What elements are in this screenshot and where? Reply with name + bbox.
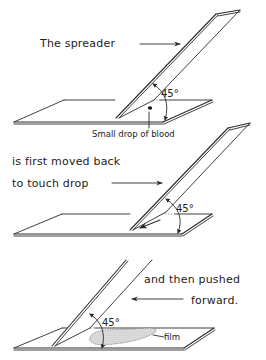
drop-label: Small drop of blood <box>92 129 175 139</box>
step-2: 45° is first moved back to touch drop <box>12 123 250 236</box>
step1-base-slide <box>14 100 213 124</box>
step3-angle-label: 45° <box>102 317 120 328</box>
spreader-label: The spreader <box>39 37 115 50</box>
film-label: film <box>164 332 180 342</box>
step2-base-slide <box>14 214 213 236</box>
smear-diagram: 45° The spreader Small drop of blood <box>0 0 266 360</box>
step2-label-line2: to touch drop <box>12 177 89 190</box>
step2-angle-label: 45° <box>176 203 194 214</box>
step3-label-line2: forward. <box>191 294 238 307</box>
step2-label-line1: is first moved back <box>12 155 121 168</box>
step-1: 45° The spreader Small drop of blood <box>14 10 240 139</box>
step-3: film 45° and then pushed forward. <box>14 260 240 350</box>
blood-drop <box>148 106 152 110</box>
step1-angle-label: 45° <box>161 88 179 99</box>
step3-label-line1: and then pushed <box>144 273 240 286</box>
